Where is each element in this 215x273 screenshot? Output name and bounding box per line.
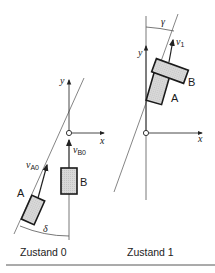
origin-circle [66,130,71,135]
panel-zustand-1: y x γ v1 B A Zustand 1 [114,14,203,258]
x-axis-label: x [99,135,105,146]
caption-zustand-0: Zustand 0 [20,246,67,258]
block-a [21,195,44,224]
velocity-label-a0: vA0 [26,159,39,171]
velocity-label-b0: vB0 [73,144,86,156]
panel-zustand-0: y x vB0 B vA0 A δ Zustand 0 [14,75,105,258]
block-a-label: A [17,187,25,199]
velocity-arrow-v1 [169,40,173,62]
origin-circle [143,130,148,135]
y-axis-label: y [137,47,143,58]
block-b-label: B [188,76,195,88]
caption-zustand-1: Zustand 1 [127,246,174,258]
collision-diagram: y x vB0 B vA0 A δ Zustand 0 y x [0,0,215,273]
velocity-label-v1: v1 [176,36,184,48]
angle-delta-label: δ [43,223,48,234]
block-a-label: A [171,92,179,104]
block-b [61,168,77,194]
y-axis-label: y [59,75,65,86]
block-b-label: B [80,176,87,188]
x-axis-label: x [197,133,203,144]
angle-gamma-arc [146,27,174,31]
angle-gamma-label: γ [161,16,166,27]
